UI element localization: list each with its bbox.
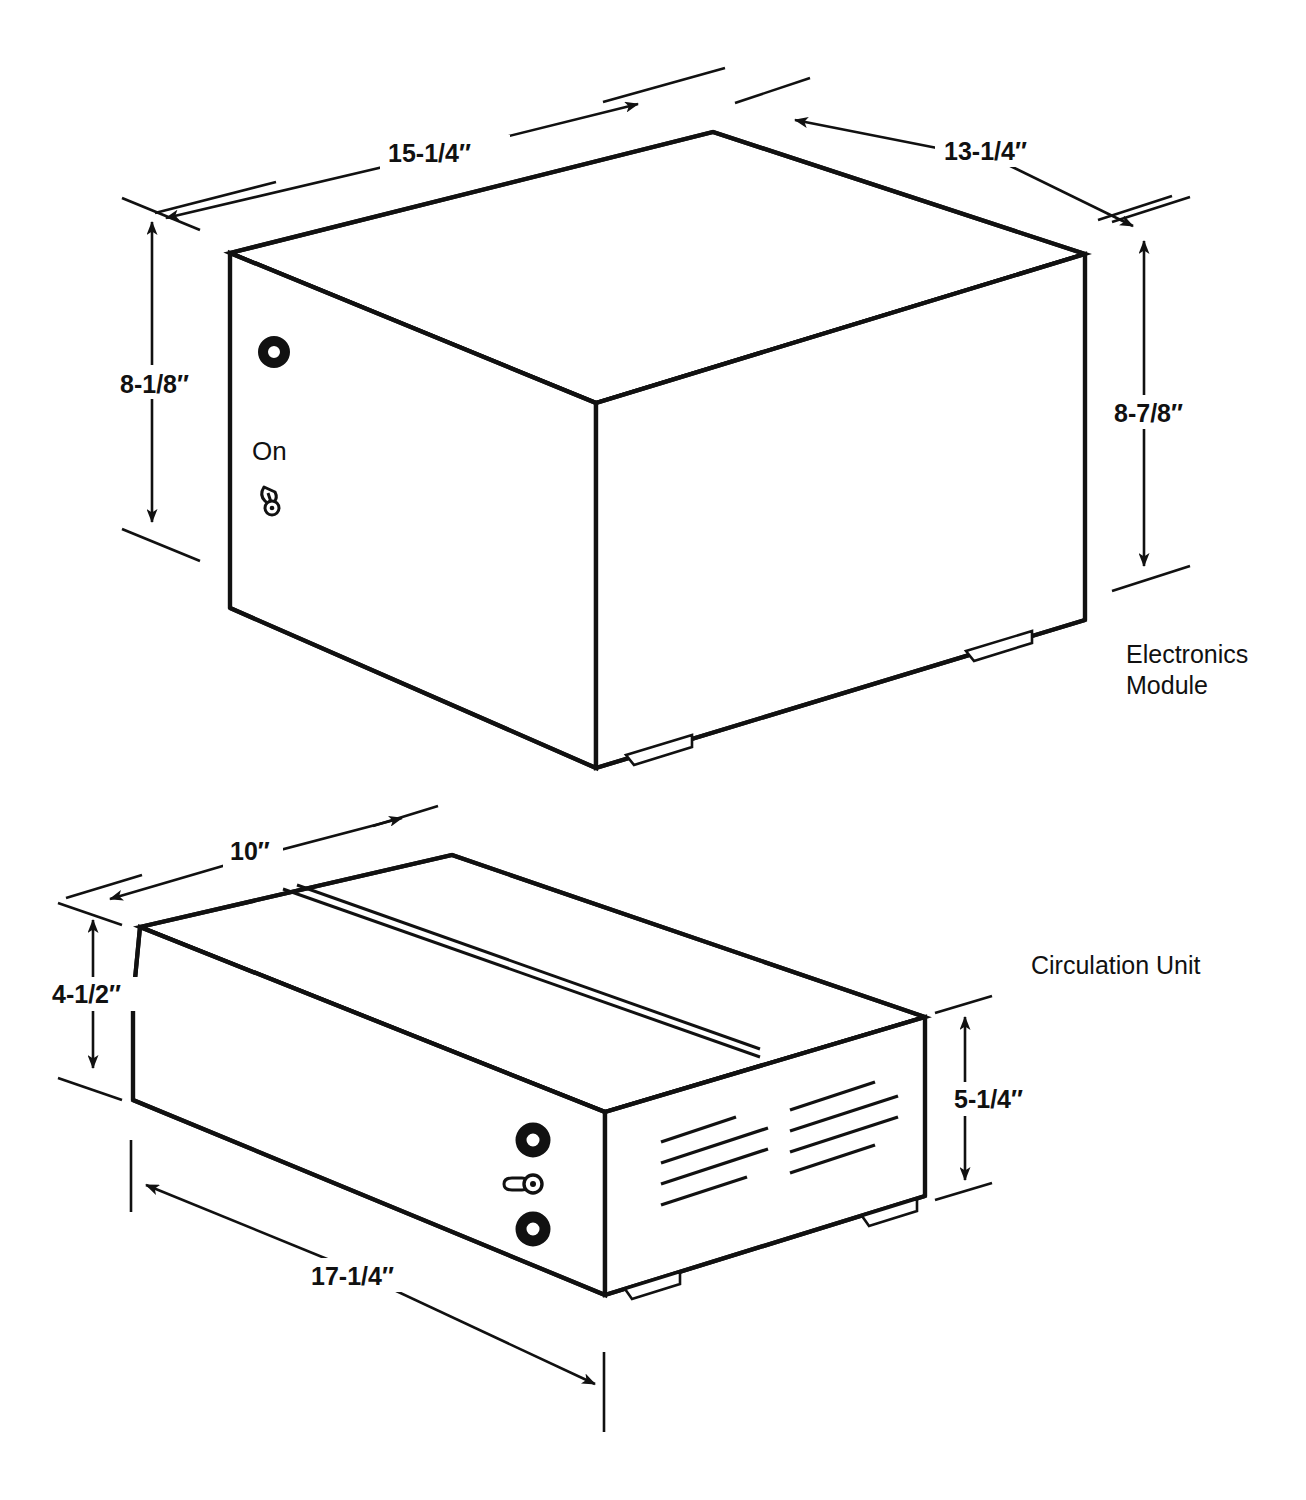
toggle-switch-icon-circulation[interactable] xyxy=(504,1175,542,1193)
electronics-module-switch-label: On xyxy=(252,436,287,466)
dimensional-diagram: On 15-1/4″ 13-1/4″ xyxy=(0,0,1306,1500)
circulation-unit-group: 10″ 4-1/2″ 5-1/4″ 17-1/4″ xyxy=(48,806,1201,1432)
dimension-em-height-left: 8-1/8″ xyxy=(112,198,206,561)
dimension-em-height-right-label: 8-7/8″ xyxy=(1114,399,1183,427)
circulation-unit-name: Circulation Unit xyxy=(1031,951,1201,979)
dimension-cu-width-label: 17-1/4″ xyxy=(311,1262,394,1290)
electronics-module-name-line1: Electronics xyxy=(1126,640,1248,668)
electronics-module-group: On 15-1/4″ 13-1/4″ xyxy=(112,68,1248,768)
dimension-cu-height-right: 5-1/4″ xyxy=(935,996,1040,1200)
dimension-cu-height-left-label: 4-1/2″ xyxy=(52,980,121,1008)
dimension-cu-depth-label: 10″ xyxy=(230,837,270,865)
dimension-em-height-left-label: 8-1/8″ xyxy=(120,370,189,398)
dimension-cu-height-right-label: 5-1/4″ xyxy=(954,1085,1023,1113)
dimension-em-height-right: 8-7/8″ xyxy=(1106,197,1200,591)
dimension-cu-height-left: 4-1/2″ xyxy=(48,903,138,1100)
dimension-em-depth-label: 13-1/4″ xyxy=(944,137,1027,165)
electronics-module-name-line2: Module xyxy=(1126,671,1208,699)
diagram-canvas: On 15-1/4″ 13-1/4″ xyxy=(0,0,1306,1500)
dimension-em-width-label: 15-1/4″ xyxy=(388,139,471,167)
